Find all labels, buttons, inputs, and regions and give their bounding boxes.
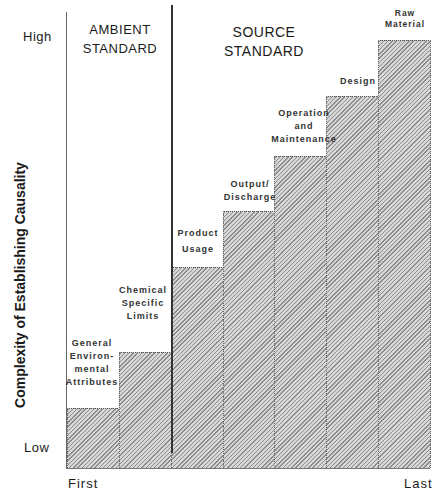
region-ambient-standard: AMBIENT STANDARD [72, 20, 168, 58]
bar-label-line: and [268, 120, 340, 133]
bar-label-chemical-specific-limits: Chemical Specific Limits [112, 284, 174, 323]
x-axis-last-label: Last [404, 476, 433, 491]
bar-label-line: Operation [268, 107, 340, 120]
bar-output-discharge [223, 211, 276, 468]
region-ambient-line1: AMBIENT [72, 20, 168, 39]
region-source-line2: STANDARD [222, 42, 306, 61]
bar-label-line: Output/ [220, 178, 280, 191]
bar-operation-and-maintenance [274, 156, 327, 468]
bar-label-line: Raw [375, 8, 435, 19]
region-source-standard: SOURCE STANDARD [222, 23, 306, 61]
y-axis-high-label: High [23, 29, 52, 44]
bar-label-raw-material: Raw Material [375, 8, 435, 30]
bar-label-output-discharge: Output/ Discharge [220, 178, 280, 204]
bar-label-line: Specific [112, 297, 174, 310]
bar-raw-material [378, 40, 431, 468]
bar-chemical-specific-limits [119, 352, 172, 468]
bar-label-line: mental [60, 363, 124, 376]
bar-general-environmental-attributes [67, 408, 120, 468]
x-axis-line [66, 468, 430, 469]
bar-label-line: Limits [112, 310, 174, 323]
bar-label-line: Attributes [60, 376, 124, 389]
bar-product-usage [171, 267, 224, 468]
bar-label-product-usage: Product Usage [172, 225, 224, 257]
bar-label-line: Discharge [220, 191, 280, 204]
bar-label-line: General [60, 337, 124, 350]
y-axis-title: Complexity of Establishing Causality [12, 135, 32, 435]
y-axis-low-label: Low [24, 440, 49, 455]
bar-label-line: Design [330, 75, 386, 88]
bar-design [326, 96, 379, 468]
bar-label-operation-and-maintenance: Operation and Maintenance [268, 107, 340, 146]
bar-label-design: Design [330, 75, 386, 88]
bar-label-line: Material [375, 19, 435, 30]
y-axis-line [66, 12, 67, 468]
bar-label-line: Maintenance [268, 133, 340, 146]
bar-label-line: Usage [172, 241, 224, 257]
bar-label-general-environmental-attributes: General Environ- mental Attributes [60, 337, 124, 389]
x-axis-first-label: First [68, 476, 98, 491]
bar-label-line: Product [172, 225, 224, 241]
region-ambient-line2: STANDARD [72, 39, 168, 58]
bar-label-line: Chemical [112, 284, 174, 297]
bar-label-line: Environ- [60, 350, 124, 363]
region-source-line1: SOURCE [222, 23, 306, 42]
